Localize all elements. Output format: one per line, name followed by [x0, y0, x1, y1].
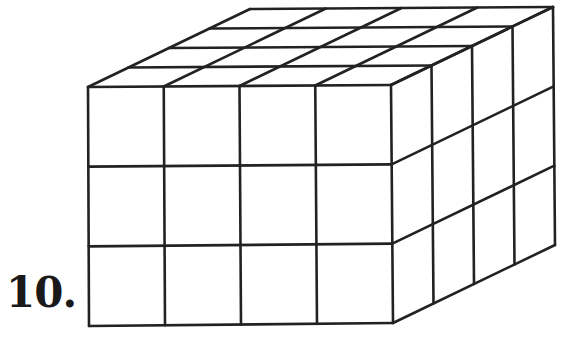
front-horizontal-line — [89, 323, 393, 326]
front-vertical-line — [164, 87, 165, 326]
side-vertical-line — [513, 27, 515, 265]
side-vertical-line — [472, 46, 474, 284]
side-vertical-line — [553, 7, 555, 245]
front-horizontal-line — [88, 164, 391, 166]
front-vertical-line — [88, 87, 89, 326]
front-vertical-line — [391, 85, 393, 323]
top-width-line — [129, 66, 432, 68]
cube-grid-lines — [88, 7, 555, 326]
front-vertical-line — [240, 86, 242, 325]
top-width-line — [210, 27, 513, 29]
top-width-line — [169, 46, 472, 48]
side-vertical-line — [432, 66, 434, 304]
front-vertical-line — [315, 86, 317, 324]
top-width-line — [250, 7, 553, 9]
cube-prism-figure — [0, 0, 588, 346]
front-horizontal-line — [89, 244, 393, 247]
